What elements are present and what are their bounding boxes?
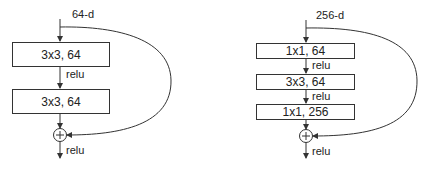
layer-label: 1x1, 256 <box>282 105 328 119</box>
right-conv-layer-3: 1x1, 256 <box>256 104 355 120</box>
right-relu-label-3: relu <box>312 146 330 157</box>
layer-label: 3x3, 64 <box>286 75 325 89</box>
left-relu-label-1: relu <box>66 69 84 80</box>
right-add-icon <box>299 129 313 143</box>
right-input-dim-label: 256-d <box>316 10 344 21</box>
right-conv-layer-1: 1x1, 64 <box>256 43 355 59</box>
left-relu-label-2: relu <box>66 145 84 156</box>
left-input-dim-label: 64-d <box>72 9 94 20</box>
layer-label: 3x3, 64 <box>41 48 80 62</box>
right-relu-label-2: relu <box>312 91 330 102</box>
layer-label: 3x3, 64 <box>41 95 80 109</box>
left-conv-layer-2: 3x3, 64 <box>12 89 110 114</box>
diagram-lines <box>0 0 428 170</box>
left-add-icon <box>53 128 67 142</box>
right-relu-label-1: relu <box>312 60 330 71</box>
right-conv-layer-2: 3x3, 64 <box>256 74 355 90</box>
layer-label: 1x1, 64 <box>286 44 325 58</box>
left-conv-layer-1: 3x3, 64 <box>12 42 110 67</box>
